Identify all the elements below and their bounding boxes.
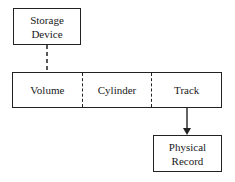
node-label-line2: Device xyxy=(31,27,62,41)
node-label-line1: Storage xyxy=(30,13,64,27)
track-segment: Track xyxy=(151,73,221,107)
volume-segment: Volume xyxy=(13,73,82,107)
cylinder-segment: Cylinder xyxy=(82,73,152,107)
storage-device-node: Storage Device xyxy=(13,8,81,45)
physical-record-node: Physical Record xyxy=(153,135,222,172)
arrowhead-icon xyxy=(183,128,191,135)
node-label-line1: Physical xyxy=(169,140,206,154)
node-label-line2: Record xyxy=(172,154,204,168)
storage-hierarchy-row: Volume Cylinder Track xyxy=(12,72,222,108)
